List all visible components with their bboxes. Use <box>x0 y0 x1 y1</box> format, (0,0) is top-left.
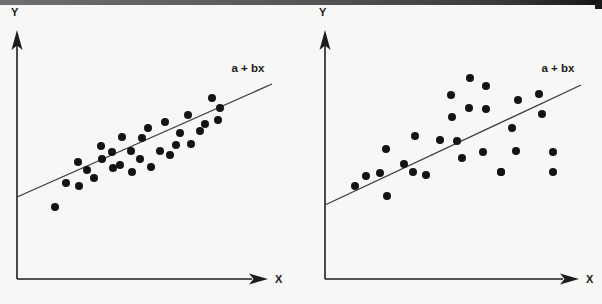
right-x-axis-label: X <box>586 273 594 285</box>
data-point <box>409 168 417 176</box>
data-point <box>376 169 384 177</box>
left-plot-canvas: Y X a + bx <box>0 0 301 304</box>
data-point <box>90 174 98 182</box>
data-point <box>465 104 473 112</box>
data-point <box>172 141 180 149</box>
data-point <box>176 129 184 137</box>
figure-page: Y X a + bx Y <box>0 0 602 304</box>
data-point <box>512 147 520 155</box>
data-point <box>138 134 146 142</box>
data-point <box>118 133 126 141</box>
data-point <box>514 96 522 104</box>
data-point <box>362 172 370 180</box>
data-point <box>161 118 169 126</box>
data-point <box>74 158 82 166</box>
data-point <box>166 151 174 159</box>
data-point <box>535 90 543 98</box>
right-regression-line-label: a + bx <box>542 62 576 74</box>
data-point <box>436 136 444 144</box>
data-point <box>51 203 59 211</box>
data-point <box>453 137 461 145</box>
data-point <box>184 111 192 119</box>
data-point <box>127 147 135 155</box>
data-point <box>216 104 224 112</box>
data-point <box>108 148 116 156</box>
data-point <box>538 110 546 118</box>
data-point <box>97 142 105 150</box>
right-x-axis <box>325 274 579 285</box>
data-point <box>447 91 455 99</box>
left-x-axis-label: X <box>275 273 283 285</box>
data-point <box>156 147 164 155</box>
data-point <box>147 163 155 171</box>
data-point <box>187 140 195 148</box>
data-point <box>208 94 216 102</box>
data-point <box>400 160 408 168</box>
data-point <box>136 155 144 163</box>
left-scatter-points <box>51 94 224 211</box>
data-point <box>214 116 222 124</box>
data-point <box>201 120 209 128</box>
data-point <box>109 164 117 172</box>
right-regression-line <box>325 85 581 205</box>
data-point <box>144 124 152 132</box>
left-x-axis <box>17 274 268 285</box>
data-point <box>62 179 70 187</box>
data-point <box>482 105 490 113</box>
data-point <box>128 168 136 176</box>
data-point <box>549 148 557 156</box>
data-point <box>98 155 106 163</box>
figure-left-scatter: Y X a + bx <box>0 0 301 304</box>
data-point <box>83 166 91 174</box>
data-point <box>383 192 391 200</box>
data-point <box>458 154 466 162</box>
right-y-axis-label: Y <box>319 6 327 18</box>
right-y-axis <box>320 30 331 279</box>
left-y-axis-label: Y <box>11 6 19 18</box>
data-point <box>549 168 557 176</box>
data-point <box>382 145 390 153</box>
data-point <box>448 113 456 121</box>
data-point <box>351 182 359 190</box>
figure-right-scatter: Y X a + bx <box>301 0 602 304</box>
data-point <box>75 182 83 190</box>
left-y-axis <box>12 30 23 279</box>
data-point <box>422 171 430 179</box>
data-point <box>411 132 419 140</box>
data-point <box>196 127 204 135</box>
data-point <box>508 124 516 132</box>
right-scatter-points <box>351 74 557 200</box>
data-point <box>482 82 490 90</box>
data-point <box>466 74 474 82</box>
data-point <box>497 168 505 176</box>
right-plot-canvas: Y X a + bx <box>301 0 602 304</box>
data-point <box>479 148 487 156</box>
data-point <box>116 161 124 169</box>
left-regression-line-label: a + bx <box>232 62 266 74</box>
